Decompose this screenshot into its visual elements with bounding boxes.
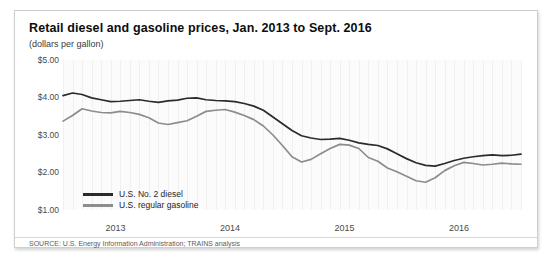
x-axis-tick-label: 2013: [105, 223, 125, 233]
x-axis-tick-label: 2014: [220, 223, 240, 233]
source-note: SOURCE: U.S. Energy Information Administ…: [29, 240, 240, 247]
legend-item: U.S. No. 2 diesel: [83, 189, 198, 200]
x-axis-tick-label: 2015: [334, 223, 354, 233]
y-axis-tick-label: $1.00: [38, 206, 59, 215]
x-axis-tick-label: 2016: [449, 223, 469, 233]
legend-swatch: [83, 204, 113, 207]
series-lines: [63, 60, 521, 210]
legend-item: U.S. regular gasoline: [83, 200, 198, 211]
gridline: [521, 60, 522, 210]
y-axis-tick-label: $3.00: [38, 131, 59, 140]
legend-label: U.S. No. 2 diesel: [119, 190, 183, 199]
series-line: [63, 109, 521, 183]
y-axis-tick-label: $5.00: [38, 56, 59, 65]
series-line: [63, 93, 521, 166]
figure-card: Retail diesel and gasoline prices, Jan. …: [14, 10, 538, 248]
divider: [15, 237, 537, 238]
legend-label: U.S. regular gasoline: [119, 201, 198, 210]
y-axis-tick-label: $4.00: [38, 93, 59, 102]
page-title: Retail diesel and gasoline prices, Jan. …: [29, 21, 372, 35]
y-axis-tick-label: $2.00: [38, 168, 59, 177]
legend-swatch: [83, 193, 113, 196]
chart-subtitle: (dollars per gallon): [29, 39, 104, 49]
plot-area: [63, 60, 521, 210]
chart-legend: U.S. No. 2 dieselU.S. regular gasoline: [83, 189, 198, 211]
